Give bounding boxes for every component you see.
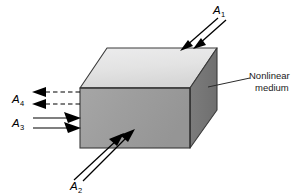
- wave-A3-label-subscript: 3: [20, 123, 24, 132]
- wave-A1-label-subscript: 1: [221, 10, 225, 19]
- wave-A3-arrowhead-1: [64, 112, 81, 123]
- nonlinear-medium-box: [80, 48, 217, 148]
- wave-A4-label-subscript: 4: [20, 99, 24, 108]
- wave-A2-label-base: A: [69, 180, 78, 192]
- medium-callout-line-1: Nonlinear: [249, 70, 290, 81]
- box-front-face: [80, 88, 190, 148]
- wave-A4-label: A 4: [11, 93, 24, 108]
- wave-A3-label: A 3: [11, 117, 24, 132]
- wave-A4-arrowhead-2: [32, 99, 46, 109]
- wave-A3-arrows: [33, 112, 81, 133]
- wave-A3-label-base: A: [11, 117, 20, 129]
- wave-A4-arrows: [32, 87, 80, 109]
- wave-A1-arrows: [180, 18, 226, 51]
- wave-A2-label-subscript: 2: [78, 186, 82, 194]
- wave-A2-label: A 2: [69, 180, 82, 194]
- wave-A4-arrowhead-1: [32, 87, 46, 97]
- nonlinear-medium-diagram: A 1 A 4 A 3: [0, 0, 303, 194]
- wave-A3-arrowhead-2: [64, 122, 81, 133]
- wave-A1-label: A 1: [212, 4, 225, 19]
- figure-canvas: A 1 A 4 A 3: [0, 0, 303, 194]
- wave-A4-label-base: A: [11, 93, 20, 105]
- medium-callout-line-2: medium: [255, 82, 289, 93]
- wave-A1-label-base: A: [212, 4, 221, 16]
